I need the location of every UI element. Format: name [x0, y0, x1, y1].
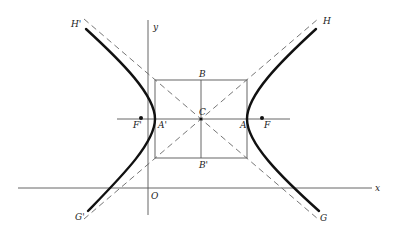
hyperbola-right-branch	[247, 29, 319, 211]
vertex-a-prime-label: A'	[157, 120, 167, 130]
x-axis-label: x	[375, 183, 380, 193]
vertex-a-label: A	[239, 120, 247, 130]
origin-label: O	[151, 191, 159, 201]
asymptote-g-prime-label: G'	[75, 212, 85, 222]
conj-b-label: B	[198, 69, 206, 79]
focus-f-label: F	[263, 120, 271, 130]
asymptote-g-label: G	[320, 213, 327, 223]
focus-f-prime-label: F'	[132, 120, 142, 130]
asymptote-h-prime-label: H'	[70, 19, 81, 29]
hyperbola-diagram: y x O C A A' F F' B B' H H' G G'	[0, 0, 396, 232]
asymptote-h-label: H	[322, 16, 331, 26]
conj-b-prime-label: B'	[198, 160, 208, 170]
y-axis-label: y	[152, 22, 159, 32]
hyperbola-left-branch	[86, 29, 155, 211]
center-point	[199, 117, 202, 120]
center-label: C	[199, 107, 206, 117]
